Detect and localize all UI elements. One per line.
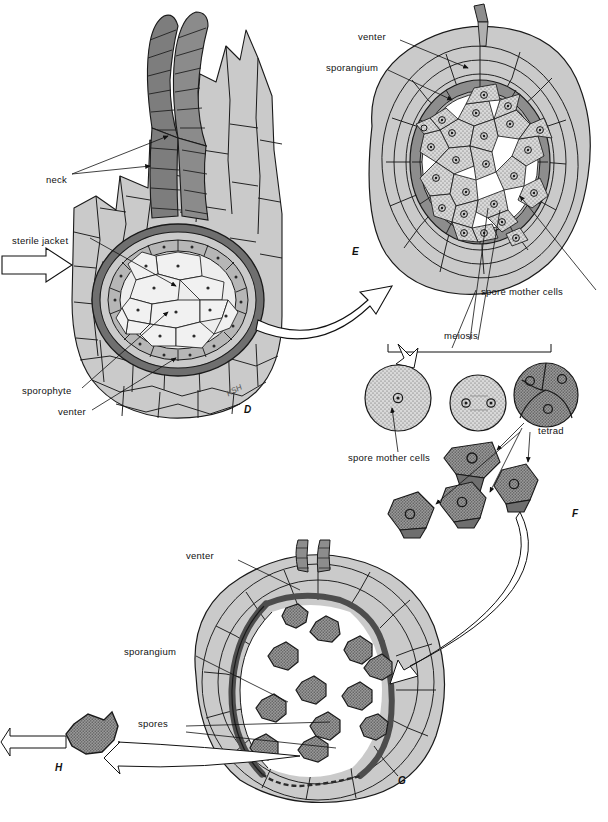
label-sterile-jacket-d: sterile jacket bbox=[12, 235, 68, 246]
panel-h-released-spore bbox=[66, 712, 118, 754]
label-neck-d: neck bbox=[46, 174, 67, 185]
plate-label-e: E bbox=[352, 246, 359, 257]
label-meiosis: meiosis bbox=[444, 330, 478, 341]
panel-e-sporangium bbox=[369, 4, 590, 294]
panel-f-meiosis bbox=[365, 344, 578, 538]
plate-label-d: D bbox=[244, 404, 251, 415]
label-venter-d: venter bbox=[58, 406, 86, 417]
illustration-svg bbox=[0, 0, 608, 822]
label-spores-g: spores bbox=[138, 718, 168, 729]
label-venter-e: venter bbox=[358, 31, 386, 42]
exit-arrow-h bbox=[1, 728, 66, 756]
label-sporangium-g: sporangium bbox=[124, 646, 176, 657]
label-sporophyte-d: sporophyte bbox=[22, 385, 72, 396]
figure-canvas: neck sterile jacket sporophyte venter ve… bbox=[0, 0, 608, 822]
label-tetrad: tetrad bbox=[538, 425, 564, 436]
panel-d-archegonium bbox=[72, 12, 282, 418]
label-venter-g: venter bbox=[186, 550, 214, 561]
block-arrow-into-d bbox=[2, 248, 72, 282]
plate-label-h: H bbox=[55, 762, 62, 773]
plate-label-f: F bbox=[572, 508, 578, 519]
label-spore-mother-cells-e: spore mother cells bbox=[481, 286, 563, 297]
label-sporangium-e: sporangium bbox=[326, 62, 378, 73]
label-spore-mother-cells-f: spore mother cells bbox=[348, 452, 430, 463]
plate-label-g: G bbox=[398, 775, 406, 786]
